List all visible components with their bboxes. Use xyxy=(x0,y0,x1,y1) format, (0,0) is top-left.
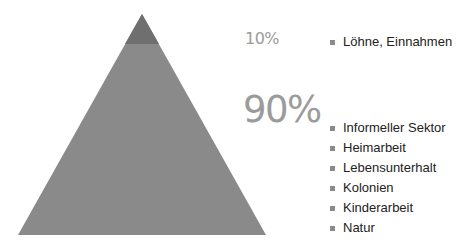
legend-item: Informeller Sektor xyxy=(330,118,446,138)
square-bullet-icon xyxy=(330,186,335,191)
square-bullet-icon xyxy=(330,206,335,211)
legend-item: Heimarbeit xyxy=(330,138,446,158)
tier-top-legend: Löhne, Einnahmen xyxy=(330,32,452,52)
legend-item: Löhne, Einnahmen xyxy=(330,32,452,52)
square-bullet-icon xyxy=(330,146,335,151)
pyramid-tip xyxy=(125,14,159,44)
legend-item: Natur xyxy=(330,218,446,238)
legend-item: Lebensunterhalt xyxy=(330,158,446,178)
square-bullet-icon xyxy=(330,40,335,45)
pyramid-body xyxy=(18,14,266,235)
legend-item: Kinderarbeit xyxy=(330,198,446,218)
tier-bottom-percent: 90% xyxy=(243,88,321,131)
legend-item: Kolonien xyxy=(330,178,446,198)
square-bullet-icon xyxy=(330,126,335,131)
square-bullet-icon xyxy=(330,166,335,171)
legend-item-label: Natur xyxy=(343,218,375,238)
legend-item-label: Löhne, Einnahmen xyxy=(343,32,452,52)
legend-item-label: Informeller Sektor xyxy=(343,118,446,138)
legend-item-label: Heimarbeit xyxy=(343,138,406,158)
legend-item-label: Kinderarbeit xyxy=(343,198,413,218)
legend-item-label: Kolonien xyxy=(343,178,394,198)
tier-bottom-legend: Informeller Sektor Heimarbeit Lebensunte… xyxy=(330,118,446,238)
tier-top-percent: 10% xyxy=(245,29,279,48)
square-bullet-icon xyxy=(330,226,335,231)
legend-item-label: Lebensunterhalt xyxy=(343,158,436,178)
